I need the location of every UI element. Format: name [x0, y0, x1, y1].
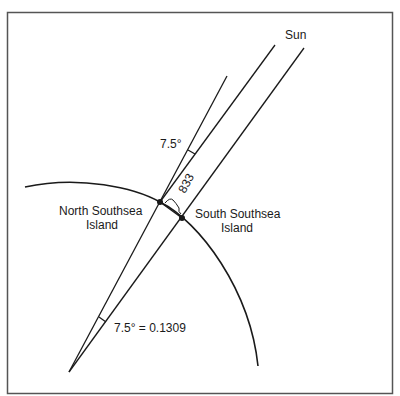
north-island-label-line2: Island [86, 218, 118, 232]
bottom-angle-label: 7.5° = 0.1309 [114, 321, 186, 335]
south-island-label-line2: Island [221, 221, 253, 235]
distance-label: 833 [175, 171, 197, 196]
diagram-canvas: Sun 7.5° 833 North Southsea Island South… [0, 0, 400, 396]
north-island-label-line1: North Southsea [59, 204, 143, 218]
north-island-marker [157, 199, 163, 205]
north-sun-ray [160, 45, 275, 202]
south-island-label-line1: South Southsea [195, 207, 281, 221]
sun-label: Sun [285, 28, 306, 42]
south-island-marker [179, 215, 185, 221]
diagram-frame [8, 13, 393, 394]
top-angle-label: 7.5° [160, 137, 182, 151]
top-angle-tick [188, 150, 195, 154]
bottom-angle-tick [99, 317, 106, 322]
